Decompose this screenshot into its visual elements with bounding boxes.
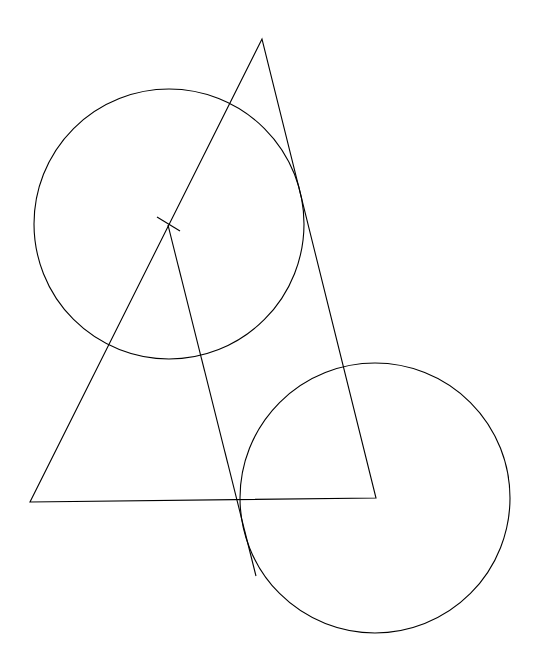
line-segment (168, 225, 256, 576)
triangle (30, 39, 376, 502)
geometry-diagram (0, 0, 538, 671)
